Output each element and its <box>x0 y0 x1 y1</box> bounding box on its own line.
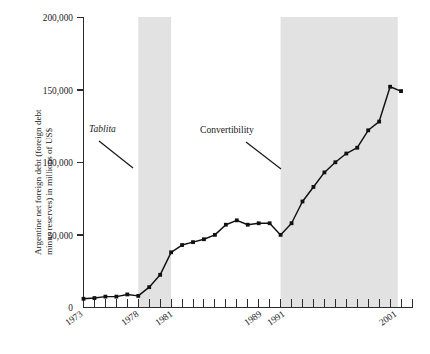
data-point-1986 <box>224 223 228 227</box>
data-point-1976 <box>114 295 118 299</box>
data-point-1997 <box>344 152 348 156</box>
data-point-2000 <box>377 120 381 124</box>
data-point-1979 <box>147 285 151 289</box>
data-point-1994 <box>312 185 316 189</box>
data-point-1987 <box>235 218 239 222</box>
data-point-1998 <box>355 146 359 150</box>
data-point-1974 <box>93 296 97 300</box>
argentine-net-foreign-debt-line-chart: 200,000 150,000 100,000 50,000 0 1973 19… <box>0 0 430 354</box>
data-point-1984 <box>202 237 206 241</box>
data-point-1982 <box>180 243 184 247</box>
annotation-label-tablita: Tablita <box>89 123 116 134</box>
data-point-1991 <box>279 233 283 237</box>
y-axis-title-group: Argentine net foreign debt (foreign debt… <box>33 109 54 255</box>
data-point-1978 <box>136 294 140 298</box>
data-point-1989 <box>257 221 261 225</box>
data-point-1992 <box>290 221 294 225</box>
data-point-1993 <box>301 200 305 204</box>
data-point-1996 <box>333 160 337 164</box>
data-point-1973 <box>82 297 86 301</box>
data-point-1981 <box>169 250 173 254</box>
data-point-1975 <box>104 295 108 299</box>
y-tick-label-200000: 200,000 <box>43 13 74 23</box>
data-point-1977 <box>125 293 129 297</box>
data-point-1999 <box>366 128 370 132</box>
y-axis-title-line-2: minus reserves) in millions of US$ <box>44 127 54 255</box>
y-tick-label-0: 0 <box>68 303 73 313</box>
data-point-1988 <box>246 223 250 227</box>
data-point-1980 <box>158 273 162 277</box>
annotation-label-convertibility: Convertibility <box>200 124 254 135</box>
shaded-band-convertibility <box>281 17 398 307</box>
y-axis-title-line-1: Argentine net foreign debt (foreign debt <box>33 109 43 255</box>
data-point-2001 <box>388 85 392 89</box>
data-point-1985 <box>213 233 217 237</box>
chart-container: 200,000 150,000 100,000 50,000 0 1973 19… <box>0 0 430 354</box>
data-point-1995 <box>323 171 327 175</box>
data-point-2002 <box>399 89 403 93</box>
data-point-1983 <box>191 240 195 244</box>
y-tick-label-150000: 150,000 <box>43 86 74 96</box>
data-point-1990 <box>268 221 272 225</box>
